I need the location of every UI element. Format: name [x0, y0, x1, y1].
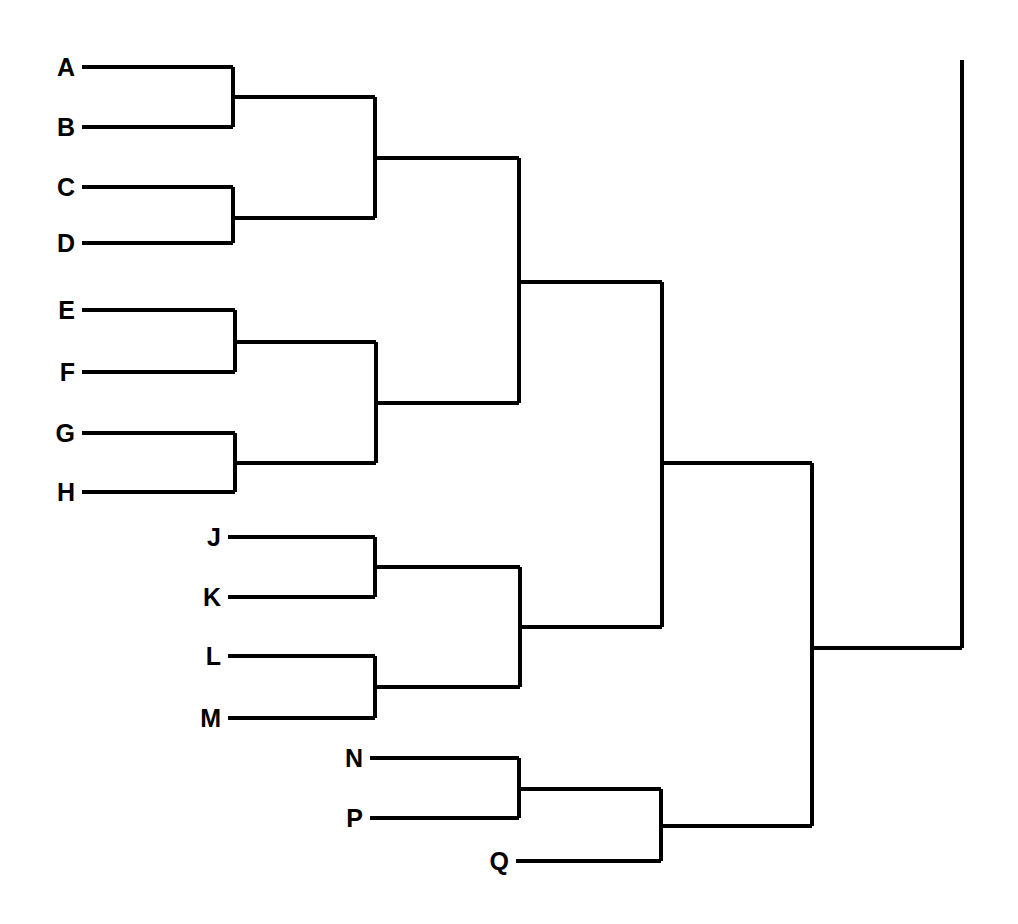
- dendrogram-figure: ABCDEFGHJKLMNPQ: [0, 0, 1018, 924]
- merge-branch-lines: [233, 60, 962, 861]
- leaf-label-n: N: [345, 746, 363, 771]
- leaf-label-j: J: [207, 525, 221, 550]
- leaf-label-e: E: [58, 298, 75, 323]
- leaf-label-f: F: [60, 360, 75, 385]
- leaf-label-g: G: [56, 421, 75, 446]
- leaf-label-h: H: [57, 480, 75, 505]
- leaf-label-l: L: [206, 644, 221, 669]
- leaf-label-d: D: [57, 231, 75, 256]
- leaf-label-k: K: [203, 585, 221, 610]
- leaf-label-q: Q: [490, 849, 509, 874]
- leaf-label-p: P: [346, 806, 363, 831]
- leaf-label-b: B: [57, 115, 75, 140]
- leaf-label-a: A: [57, 55, 75, 80]
- leaf-label-m: M: [200, 706, 221, 731]
- dendrogram-canvas: [0, 0, 1018, 924]
- leaf-label-c: C: [57, 175, 75, 200]
